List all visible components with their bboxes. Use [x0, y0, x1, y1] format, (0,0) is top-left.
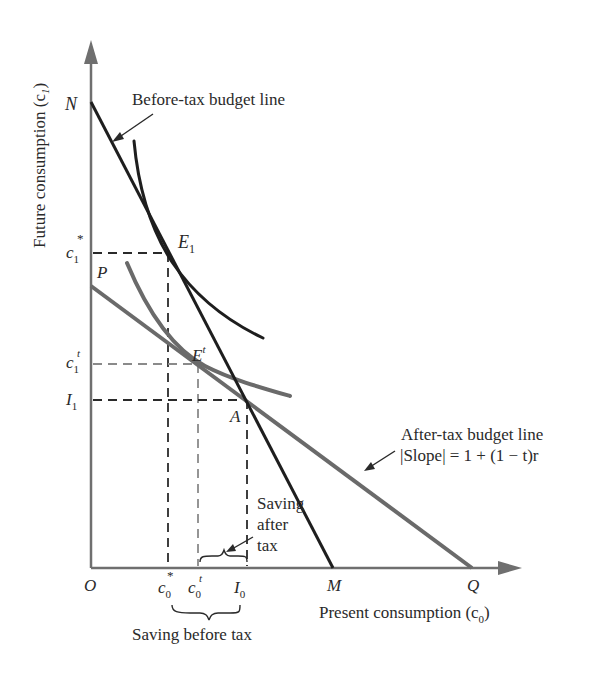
- after-tax-pointer: [370, 451, 395, 467]
- saving-after-tax-pointer: [232, 537, 253, 549]
- saving-after-tax-brace: [200, 550, 247, 562]
- x-axis-label: Present consumption (c0): [319, 603, 490, 625]
- after-tax-slope-label: |Slope| = 1 + (1 − t)r: [400, 446, 539, 465]
- point-E1-label: E1: [177, 232, 195, 256]
- saving-after-tax-label-2: after: [257, 515, 288, 534]
- point-Q-label: Q: [467, 576, 479, 595]
- point-Et-label: Et: [191, 343, 206, 365]
- before-tax-pointer-arrow-icon: [112, 132, 124, 142]
- point-A-label: A: [229, 407, 241, 426]
- saving-before-tax-brace: [172, 605, 240, 620]
- x-tick-c0-t-sup: t: [199, 572, 203, 584]
- point-P-label: P: [96, 263, 107, 282]
- x-tick-I0: I0: [233, 578, 246, 600]
- y-axis-label: Future consumption (c1): [30, 83, 51, 248]
- y-tick-c1-star-sup: *: [77, 231, 84, 246]
- after-tax-pointer-arrow-icon: [364, 462, 375, 471]
- point-M-label: M: [326, 576, 342, 595]
- before-tax-line-label: Before-tax budget line: [132, 90, 285, 109]
- x-tick-c0-star-sup: *: [167, 568, 174, 583]
- y-tick-c1-star: c1: [66, 243, 79, 265]
- saving-after-tax-pointer-arrow-icon: [226, 544, 236, 552]
- point-N-label: N: [64, 94, 78, 114]
- guide-lines: [93, 253, 247, 566]
- diagram-canvas: Future consumption (c1) N P E1 Et A c1 *…: [0, 0, 598, 673]
- saving-before-tax-label: Saving before tax: [132, 625, 252, 644]
- y-tick-I1: I1: [65, 390, 77, 412]
- y-tick-c1-t-sup: t: [77, 347, 81, 359]
- before-tax-pointer: [118, 114, 153, 138]
- origin-label: O: [84, 576, 96, 595]
- y-axis-arrow-icon: [84, 40, 98, 64]
- saving-after-tax-label-3: tax: [257, 536, 278, 555]
- x-axis-arrow-icon: [498, 561, 522, 575]
- after-tax-line-label: After-tax budget line: [401, 425, 543, 444]
- saving-after-tax-label-1: Saving: [257, 494, 305, 513]
